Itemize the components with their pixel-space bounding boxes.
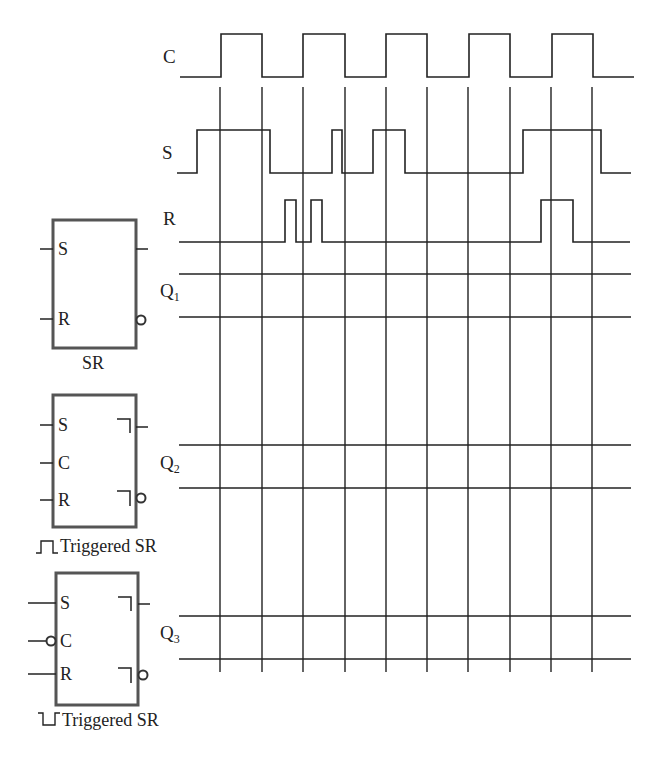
pin-label-c: C [60, 632, 72, 650]
time-grid-lines [220, 87, 592, 672]
negative-pulse-triggered-sr-symbol [28, 573, 150, 725]
negative-pulse-icon [38, 713, 60, 725]
pin-label-s: S [58, 416, 68, 434]
q-text: Q [160, 452, 174, 473]
signal-label-q1: Q1 [160, 281, 180, 303]
sr-latch-symbol [40, 220, 148, 348]
postponed-output-icon [118, 668, 131, 683]
postponed-output-icon [117, 491, 130, 506]
timing-diagram-canvas [0, 0, 665, 760]
signal-label-c-text: C [163, 46, 176, 67]
signal-label-q2: Q2 [160, 453, 180, 475]
q-text: Q [160, 622, 174, 643]
signal-label-r-text: R [163, 208, 176, 229]
q-bar-bubble-icon [137, 494, 146, 503]
block-caption-pulse-sr: Triggered SR [60, 537, 157, 555]
signal-label-r: R [163, 209, 176, 228]
pin-label-s: S [60, 594, 70, 612]
q-bar-bubble-icon [139, 671, 148, 680]
timing-diagram: C S R Q1 Q2 Q3 S R SR S C R Triggered SR… [0, 0, 665, 760]
postponed-output-icon [117, 419, 130, 433]
pin-label-r: R [60, 665, 72, 683]
signal-label-s: S [162, 143, 173, 162]
positive-pulse-icon [36, 541, 58, 553]
clock-waveform [180, 34, 634, 77]
pin-label-r: R [58, 310, 70, 328]
pulse-triggered-sr-symbol [36, 395, 148, 553]
signal-label-c: C [163, 47, 176, 66]
q-subscript: 1 [174, 290, 180, 304]
block-caption-sr: SR [82, 354, 104, 372]
pin-label-r: R [58, 491, 70, 509]
output-tracks [179, 274, 631, 659]
block-caption-neg-pulse-sr: Triggered SR [62, 711, 159, 729]
q-bar-bubble-icon [137, 316, 146, 325]
q-text: Q [160, 280, 174, 301]
pin-label-c: C [58, 454, 70, 472]
postponed-output-icon [118, 597, 131, 611]
signal-label-q3: Q3 [160, 623, 180, 645]
reset-waveform [179, 200, 630, 242]
set-waveform [177, 130, 631, 173]
clock-invert-bubble-icon [47, 637, 56, 646]
q-subscript: 3 [174, 632, 180, 646]
q-subscript: 2 [174, 462, 180, 476]
signal-label-s-text: S [162, 142, 173, 163]
pin-label-s: S [58, 240, 68, 258]
